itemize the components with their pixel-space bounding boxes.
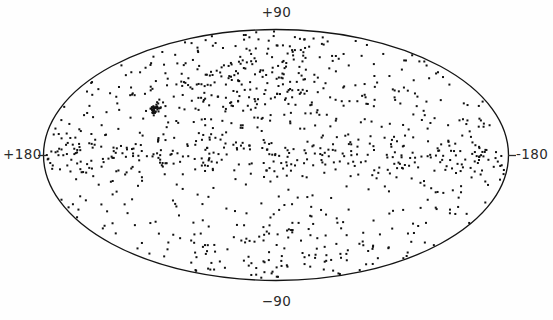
scatter-points-layer: [46, 30, 505, 278]
longitude-label-left: +180: [3, 148, 42, 162]
all-sky-scatter-plot: [0, 0, 553, 320]
sky-map-figure: +90 −90 +180 -180: [0, 0, 553, 320]
latitude-label-north: +90: [0, 6, 553, 20]
latitude-label-south: −90: [0, 295, 553, 309]
longitude-label-right: -180: [516, 148, 548, 162]
